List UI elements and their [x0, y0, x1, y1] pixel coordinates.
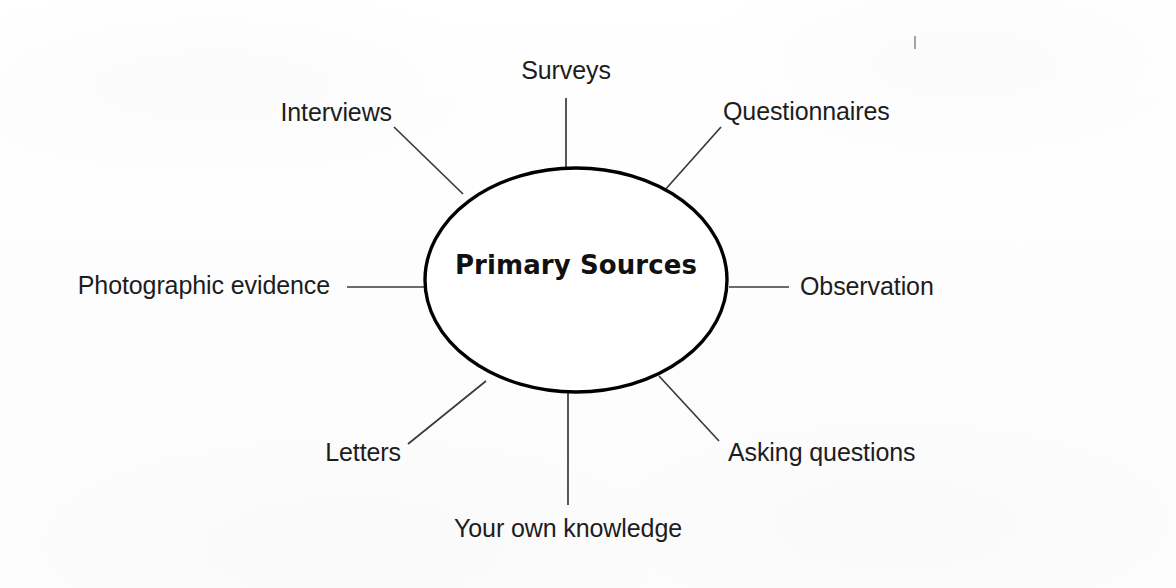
spoke-line-asking-questions	[659, 376, 719, 441]
spoke-line-letters	[408, 381, 486, 444]
node-label-your-own-knowledge: Your own knowledge	[454, 516, 682, 541]
node-label-letters: Letters	[325, 440, 401, 465]
spoke-line-questionnaires	[664, 127, 721, 191]
center-node-label: Primary Sources	[455, 250, 697, 280]
node-label-photographic-evidence: Photographic evidence	[78, 273, 330, 298]
scan-speck-artifact	[914, 36, 916, 49]
node-label-observation: Observation	[800, 274, 934, 299]
center-ellipse	[425, 168, 727, 392]
node-label-interviews: Interviews	[280, 100, 392, 125]
node-label-questionnaires: Questionnaires	[723, 99, 890, 124]
node-label-asking-questions: Asking questions	[728, 440, 915, 465]
spoke-line-interviews	[394, 127, 463, 194]
node-label-surveys: Surveys	[521, 58, 611, 83]
spider-diagram-canvas: Primary Sources Surveys Interviews Quest…	[0, 0, 1176, 588]
